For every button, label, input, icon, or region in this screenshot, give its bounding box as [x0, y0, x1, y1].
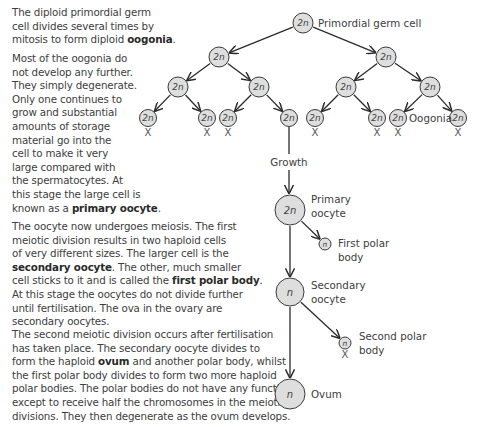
arrow-l3d-to-o8	[437, 95, 451, 110]
degenerate-x-icon: X	[225, 127, 232, 138]
arrow-l2a-to-l3a	[187, 63, 210, 80]
cell-firstpolar: n	[319, 238, 331, 250]
cell-o6: 2nX	[369, 110, 386, 138]
arrow-l3b-to-o3	[235, 95, 251, 111]
first-polar-body-label-line1: First polar	[338, 237, 390, 249]
degenerate-x-icon: X	[204, 127, 211, 138]
cell-o3: 2nX	[220, 110, 237, 138]
cell-secondary: n	[276, 278, 304, 306]
arrow-l3d-to-o7	[405, 95, 422, 111]
ploidy-label: 2n	[284, 205, 297, 216]
ploidy-label: n	[287, 389, 293, 400]
arrow-secondary-to-secondpolar	[301, 302, 340, 338]
degenerate-x-icon: X	[455, 127, 462, 138]
cell-nodes: 2n2n2n2n2n2n2n2nX2nX2nX2n2nX2nX2nX2nX2nn…	[140, 13, 467, 409]
ploidy-label: n	[287, 287, 293, 298]
arrow-root-to-l2a	[230, 27, 293, 53]
cell-o4: 2n	[281, 110, 298, 127]
ploidy-label: n	[323, 240, 328, 249]
cell-ovum: n	[275, 379, 305, 409]
degenerate-x-icon: X	[145, 127, 152, 138]
arrow-l2b-to-l3d	[395, 63, 420, 80]
ploidy-label: 2n	[309, 113, 321, 123]
ploidy-label: 2n	[380, 52, 392, 62]
arrow-primary-to-firstpolar	[301, 221, 319, 239]
ploidy-label: 2n	[201, 113, 213, 123]
primordial-germ-cell-label: Primordial germ cell	[318, 17, 421, 29]
degenerate-x-icon: X	[374, 127, 381, 138]
arrow-l2b-to-l3c	[355, 64, 377, 81]
growth-label: Growth	[270, 156, 307, 168]
cell-root: 2n	[293, 13, 313, 33]
degenerate-x-icon: X	[395, 127, 402, 138]
ploidy-label: 2n	[172, 82, 184, 92]
second-polar-body-label-line2: body	[359, 344, 384, 356]
stage-labels: Primordial germ cell Oogonia Primary ooc…	[311, 17, 452, 400]
ovum-label: Ovum	[311, 388, 342, 400]
ploidy-label: 2n	[340, 82, 352, 92]
degenerate-x-icon: X	[342, 349, 349, 360]
ploidy-label: 2n	[253, 82, 265, 92]
first-polar-body-label-line2: body	[338, 251, 363, 263]
arrow-l3b-to-o4	[267, 95, 282, 111]
primary-oocyte-label-line1: Primary	[311, 193, 351, 205]
second-polar-body-label-line1: Second polar	[359, 330, 427, 342]
ploidy-label: 2n	[283, 113, 295, 123]
growth-arrow: Growth	[270, 127, 307, 193]
ploidy-label: 2n	[452, 113, 464, 123]
cell-l3a: 2n	[168, 77, 188, 97]
cell-l3c: 2n	[336, 77, 356, 97]
cell-o7: 2nX	[390, 110, 407, 138]
arrow-root-to-l2b	[313, 27, 375, 52]
cell-l2a: 2n	[209, 47, 229, 67]
ploidy-label: 2n	[142, 113, 154, 123]
cell-secondpolar: nX	[339, 337, 351, 360]
arrow-l3a-to-o1	[155, 95, 170, 111]
cell-l3b: 2n	[249, 77, 269, 97]
primary-oocyte-label-line2: oocyte	[311, 207, 346, 219]
secondary-oocyte-label-line1: Secondary	[311, 279, 366, 291]
ploidy-label: 2n	[371, 113, 383, 123]
ploidy-label: 2n	[222, 113, 234, 123]
cell-l3d: 2n	[420, 77, 440, 97]
ploidy-label: 2n	[297, 18, 309, 28]
ploidy-label: n	[343, 339, 348, 348]
cell-primary: 2n	[275, 195, 305, 225]
cell-l2b: 2n	[376, 47, 396, 67]
arrow-l3c-to-o6	[354, 95, 370, 111]
cell-o1: 2nX	[140, 110, 157, 138]
ploidy-label: 2n	[424, 82, 436, 92]
arrow-l3c-to-o5	[322, 95, 338, 111]
oogonia-label: Oogonia	[409, 112, 452, 124]
cell-o5: 2nX	[307, 110, 324, 138]
cell-o2: 2nX	[199, 110, 216, 138]
cell-o8: 2nX	[450, 110, 467, 138]
ploidy-label: 2n	[213, 52, 225, 62]
degenerate-x-icon: X	[312, 127, 319, 138]
ploidy-label: 2n	[392, 113, 404, 123]
arrow-l2a-to-l3b	[228, 64, 250, 81]
arrow-l3a-to-o2	[186, 95, 201, 111]
oogenesis-diagram: Growth 2n2n2n2n2n2n2n2nX2nX2nX2n2nX2nX2n…	[0, 0, 482, 427]
secondary-oocyte-label-line2: oocyte	[311, 293, 346, 305]
